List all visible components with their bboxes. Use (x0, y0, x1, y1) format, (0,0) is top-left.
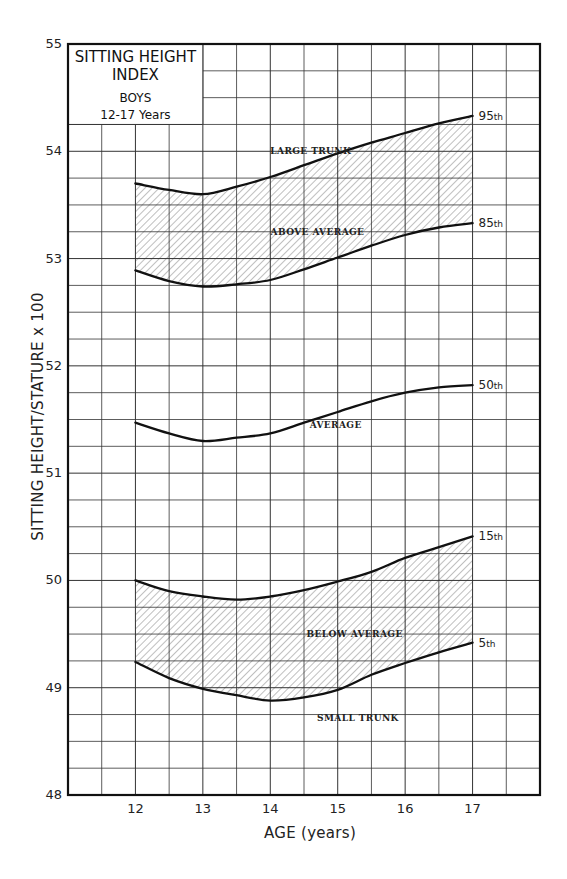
chart-subtitle-sex: BOYS (120, 91, 152, 105)
chart-title: SITTING HEIGHT (75, 48, 197, 66)
y-tick-label: 55 (45, 36, 62, 51)
y-tick-label: 48 (45, 787, 62, 802)
sitting-height-index-chart: SITTING HEIGHT INDEX BOYS 12-17 Years 95… (0, 0, 567, 879)
percentile-label-95th: 95th (479, 109, 504, 123)
annotation-above-average: ABOVE AVERAGE (270, 227, 365, 237)
chart-title-line2: INDEX (112, 66, 159, 84)
x-tick-label: 16 (397, 801, 414, 816)
annotation-small-trunk: SMALL TRUNK (317, 713, 399, 723)
percentile-label-85th: 85th (479, 216, 504, 230)
percentile-label-15th: 15th (479, 529, 504, 543)
percentile-label-5th: 5th (479, 636, 496, 650)
x-tick-label: 12 (127, 801, 144, 816)
y-axis-title: SITTING HEIGHT/STATURE x 100 (29, 292, 47, 540)
annotation-below-average: BELOW AVERAGE (306, 629, 402, 639)
percentile-labels: 95th85th50th15th5th (479, 109, 504, 650)
x-tick-label: 15 (329, 801, 346, 816)
y-tick-label: 50 (45, 572, 62, 587)
y-tick-label: 52 (45, 358, 62, 373)
x-axis-ticks: 121314151617 (127, 801, 481, 816)
x-axis-title: AGE (years) (264, 824, 356, 842)
annotation-large-trunk: LARGE TRUNK (270, 146, 352, 156)
y-tick-label: 51 (45, 465, 62, 480)
y-tick-label: 54 (45, 143, 62, 158)
y-tick-label: 49 (45, 680, 62, 695)
y-axis-ticks: 4849505152535455 (45, 36, 62, 802)
title-box: SITTING HEIGHT INDEX BOYS 12-17 Years (68, 44, 203, 124)
x-tick-label: 13 (195, 801, 212, 816)
y-tick-label: 53 (45, 251, 62, 266)
x-tick-label: 17 (464, 801, 481, 816)
chart-subtitle-age-range: 12-17 Years (100, 108, 170, 122)
percentile-label-50th: 50th (479, 378, 504, 392)
x-tick-label: 14 (262, 801, 279, 816)
annotation-average: AVERAGE (309, 420, 362, 430)
